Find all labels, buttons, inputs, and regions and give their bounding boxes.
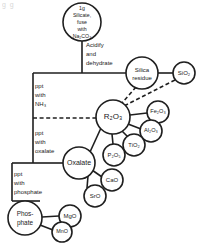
- node-oxalate[interactable]: Oxalate: [63, 147, 95, 179]
- node-tio2[interactable]: TiO₂: [123, 134, 145, 156]
- edge-label-ppt-nh3-line-0: ppt: [35, 83, 44, 89]
- edge-label-ppt-oxalate-line-1: with: [34, 139, 46, 145]
- node-sio2-label: SiO₂: [178, 70, 191, 76]
- node-phosphate[interactable]: Phos- phate: [8, 201, 42, 235]
- edge-label-ppt-oxalate-line-2: oxalate: [35, 148, 55, 154]
- node-cao-label: CaO: [106, 177, 119, 183]
- flowchart-svg: 1g Silicate, fuse with Na₂CO₃ Silica res…: [0, 0, 198, 244]
- edge-label-acidify: Acidify and dehydrate: [86, 42, 113, 66]
- edge-label-ppt-nh3-line-2: NH₃: [35, 101, 47, 107]
- edge-phosphate-to-mno: [40, 225, 53, 230]
- node-silica-residue[interactable]: Silica residue: [126, 57, 158, 89]
- diagram-canvas: g g: [0, 0, 198, 244]
- node-silica-residue-circle[interactable]: [126, 57, 158, 89]
- node-r2o3[interactable]: R₂O₃: [96, 100, 130, 134]
- edge-label-ppt-phosphate: ppt with phosphate: [13, 171, 43, 195]
- edge-label-ppt-oxalate: ppt with oxalate: [34, 130, 55, 154]
- node-sro[interactable]: SrO: [84, 185, 106, 207]
- node-sro-label: SrO: [90, 193, 101, 199]
- edge-r2o3-to-oxalate: [90, 128, 101, 152]
- node-sample-line-2: fuse: [77, 19, 87, 25]
- node-mno[interactable]: MnO: [52, 222, 72, 242]
- edge-label-ppt-nh3-line-1: with: [34, 92, 46, 98]
- node-sample-line-1: Silicate,: [73, 12, 91, 18]
- edge-label-ppt-nh3: ppt with NH₃: [34, 83, 47, 107]
- node-fe2o3-label: Fe₂O₃: [150, 108, 165, 114]
- node-sample-line-0: 1g: [79, 5, 85, 11]
- edge-silica-to-r2o3: [122, 87, 136, 103]
- node-p2o5-label: P₂O₅: [108, 152, 122, 158]
- node-cao[interactable]: CaO: [101, 169, 123, 191]
- node-r2o3-label: R₂O₃: [104, 112, 122, 121]
- node-mgo-label: MgO: [63, 213, 76, 219]
- edge-phosphate-to-mgo: [42, 216, 59, 217]
- node-al2o3-label: Al₂O₃: [144, 127, 158, 133]
- node-p2o5[interactable]: P₂O₅: [103, 144, 125, 166]
- node-tio2-label: TiO₂: [128, 142, 139, 148]
- node-phosphate-line-0: Phos-: [17, 210, 34, 217]
- edge-r2o3-to-al2o3: [128, 124, 141, 129]
- node-group: 1g Silicate, fuse with Na₂CO₃ Silica res…: [8, 3, 195, 242]
- edge-oxalate-to-sro: [87, 176, 88, 188]
- node-sio2[interactable]: SiO₂: [173, 62, 195, 84]
- node-phosphate-line-1: phate: [17, 219, 33, 227]
- node-silica-residue-line-1: residue: [132, 75, 152, 81]
- edge-label-acidify-line-1: and: [86, 51, 96, 57]
- edge-label-ppt-phosphate-line-0: ppt: [14, 171, 23, 177]
- node-silica-residue-line-0: Silica: [135, 67, 150, 73]
- node-mno-label: MnO: [56, 228, 68, 234]
- edge-label-ppt-oxalate-line-0: ppt: [35, 130, 44, 136]
- edge-label-ppt-phosphate-line-1: with: [13, 180, 25, 186]
- node-oxalate-label: Oxalate: [67, 159, 91, 166]
- node-sample-line-4: Na₂CO₃: [73, 33, 92, 39]
- edge-label-acidify-line-0: Acidify: [86, 42, 104, 48]
- node-sample-line-3: with: [77, 26, 86, 32]
- edge-label-ppt-phosphate-line-2: phosphate: [14, 189, 43, 195]
- edge-label-acidify-line-2: dehydrate: [86, 60, 113, 66]
- edge-r2o3-to-p2o5: [112, 134, 113, 144]
- edge-r2o3-to-fe2o3: [130, 113, 147, 115]
- node-sample[interactable]: 1g Silicate, fuse with Na₂CO₃: [63, 3, 101, 41]
